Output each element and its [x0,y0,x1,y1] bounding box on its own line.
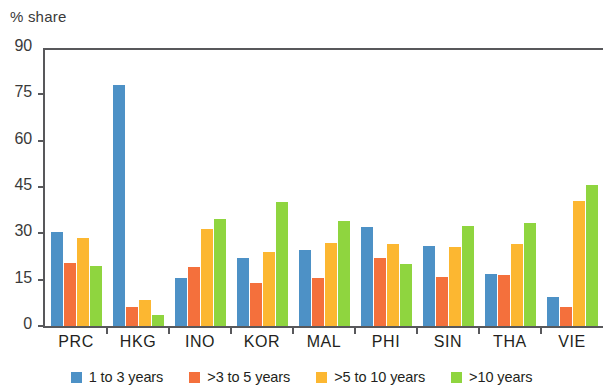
x-axis-tick-label: KOR [244,333,280,351]
bar [338,221,350,326]
bar [51,232,63,326]
x-axis-tick-mark [106,328,108,334]
bar [263,252,275,326]
bar-group [423,48,474,326]
bar [400,264,412,326]
y-axis-tick-label: 45 [15,176,32,194]
y-axis-tick-label: 15 [15,269,32,287]
y-axis-tick-label: 30 [15,222,32,240]
y-axis-tick-mark [38,279,44,281]
legend-color-swatch [189,372,200,383]
bar [113,85,125,326]
x-axis: PRCHKGINOKORMALPHISINTHAVIE [45,328,603,354]
bar [586,185,598,326]
bar [139,300,151,326]
legend-color-swatch [316,372,327,383]
bar-group [547,48,598,326]
y-axis: 0153045607590 [0,48,43,326]
legend-item-label: >5 to 10 years [334,369,425,385]
bar [560,307,572,326]
x-axis-tick-label: PRC [58,333,94,351]
bar [498,275,510,326]
legend-item-label: 1 to 3 years [89,369,164,385]
bar [90,266,102,326]
bar-group [299,48,350,326]
y-axis-tick-label: 90 [15,37,32,55]
bar [299,250,311,326]
legend-item: >10 years [451,369,532,385]
bar [64,263,76,326]
y-axis-tick-mark [38,186,44,188]
legend-color-swatch [71,372,82,383]
bar [449,247,461,326]
bar [214,219,226,326]
legend-item: 1 to 3 years [71,369,164,385]
bar-group [51,48,102,326]
bar-group [485,48,536,326]
y-axis-tick-label: 60 [15,130,32,148]
x-axis-tick-label: HKG [120,333,156,351]
bars-layer [45,48,603,326]
y-axis-tick-mark [38,140,44,142]
bar-group [237,48,288,326]
bar [126,307,138,326]
bar [374,258,386,326]
x-axis-tick-label: VIE [558,333,586,351]
bar [77,238,89,326]
bar [573,201,585,326]
x-axis-tick-label: PHI [372,333,400,351]
legend-item-label: >10 years [469,369,532,385]
bar-group [113,48,164,326]
x-axis-tick-label: INO [185,333,215,351]
x-axis-tick-mark [230,328,232,334]
bar [361,227,373,326]
x-axis-tick-label: SIN [434,333,462,351]
bar [462,226,474,326]
bar [237,258,249,326]
bar-group [175,48,226,326]
bar-chart-figure: % share 0153045607590 PRCHKGINOKORMALPHI… [0,0,603,392]
chart-axis-title: % share [10,8,66,25]
bar [436,277,448,326]
legend-item-label: >3 to 5 years [207,369,290,385]
x-axis-tick-label: THA [493,333,527,351]
bar [524,223,536,326]
bar-group [361,48,412,326]
bar [175,278,187,326]
bar [423,246,435,326]
bar [547,297,559,326]
bar [201,229,213,326]
bar [312,278,324,326]
legend-item: >3 to 5 years [189,369,290,385]
x-axis-tick-mark [354,328,356,334]
bar [511,244,523,326]
bar [485,274,497,327]
x-axis-tick-mark [168,328,170,334]
y-axis-tick-label: 75 [15,83,32,101]
bar [250,283,262,326]
bar [325,243,337,326]
x-axis-tick-mark [540,328,542,334]
x-axis-tick-mark [292,328,294,334]
y-axis-tick-mark [38,232,44,234]
bar [188,267,200,326]
chart-legend: 1 to 3 years>3 to 5 years>5 to 10 years>… [0,366,603,388]
legend-item: >5 to 10 years [316,369,425,385]
legend-color-swatch [451,372,462,383]
x-axis-tick-mark [416,328,418,334]
y-axis-tick-mark [38,93,44,95]
x-axis-tick-label: MAL [307,333,342,351]
bar [152,315,164,326]
y-axis-tick-mark [38,325,44,327]
x-axis-tick-mark [478,328,480,334]
y-axis-tick-label: 0 [23,315,32,333]
bar [387,244,399,326]
bar [276,202,288,326]
